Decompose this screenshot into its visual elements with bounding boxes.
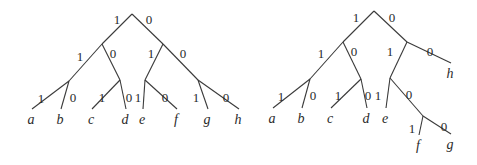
left-tree-branch-bit-label: 0 bbox=[146, 12, 153, 27]
left-tree-branch-bit-label: 0 bbox=[180, 46, 187, 61]
left-tree-leaf-branch bbox=[198, 80, 239, 109]
right-tree-leaf-symbol-g: g bbox=[447, 137, 454, 152]
right-tree-branch bbox=[310, 42, 343, 79]
left-tree-leaf-symbol-c: c bbox=[88, 112, 95, 127]
right-tree-leaf-symbol-e: e bbox=[382, 111, 388, 126]
left-tree-leaf-symbol-b: b bbox=[57, 112, 64, 127]
left-tree-leaf-symbol-d: d bbox=[122, 112, 130, 127]
right-tree-leaf-bit-label: 0 bbox=[427, 44, 434, 59]
right-tree-leaf-branch bbox=[419, 116, 423, 135]
left-tree-leaf-symbol-f: f bbox=[174, 112, 180, 127]
left-tree-leaf-bit-label: 0 bbox=[70, 90, 77, 105]
right-tree-leaf-symbol-d: d bbox=[363, 111, 371, 126]
left-tree-branch-bit-label: 1 bbox=[77, 49, 84, 64]
left-tree-leaf-bit-label: 1 bbox=[193, 90, 200, 105]
right-tree-leaf-bit-label: 1 bbox=[335, 88, 342, 103]
left-tree-leaf-symbol-g: g bbox=[204, 112, 211, 127]
right-tree-leaf-bit-label: 1 bbox=[409, 121, 416, 136]
left-tree-leaf-branch bbox=[61, 81, 69, 109]
left-tree-leaf-bit-label: 0 bbox=[126, 90, 133, 105]
left-tree-leaf-branch bbox=[92, 80, 120, 109]
code-tree-diagram: 1010101a0b1c0d1e0f1g0h1010101a0b1c0d1e0h… bbox=[0, 0, 477, 165]
left-tree-leaf-symbol-e: e bbox=[139, 112, 145, 127]
right-tree-leaf-symbol-b: b bbox=[298, 111, 305, 126]
left-tree-leaf-bit-label: 1 bbox=[38, 91, 45, 106]
right-tree-branch-bit-label: 1 bbox=[318, 46, 325, 61]
left-tree-branch bbox=[69, 44, 102, 81]
right-tree-branch-bit-label: 0 bbox=[351, 44, 358, 59]
right-tree-leaf-bit-label: 1 bbox=[375, 88, 382, 103]
left-tree-leaf-bit-label: 1 bbox=[135, 90, 142, 105]
right-tree-leaf-symbol-h: h bbox=[447, 66, 454, 81]
left-tree-leaf-symbol-a: a bbox=[28, 112, 35, 127]
left-tree-branch-bit-label: 1 bbox=[114, 12, 121, 27]
right-tree-leaf-bit-label: 0 bbox=[365, 88, 372, 103]
left-tree-leaf-bit-label: 0 bbox=[223, 90, 230, 105]
right-tree-leaf-symbol-c: c bbox=[327, 111, 334, 126]
left-tree-leaf-symbol-h: h bbox=[235, 112, 242, 127]
right-tree-leaf-bit-label: 1 bbox=[278, 89, 285, 104]
right-tree-leaf-symbol-a: a bbox=[269, 111, 276, 126]
left-tree-branch-bit-label: 0 bbox=[110, 46, 117, 61]
right-tree-leaf-symbol-f: f bbox=[416, 138, 422, 153]
right-tree-leaf-branch bbox=[386, 78, 390, 108]
left-tree-leaf-bit-label: 1 bbox=[99, 90, 106, 105]
right-tree-branch-bit-label: 1 bbox=[353, 10, 360, 25]
right-tree-leaf-bit-label: 0 bbox=[310, 88, 317, 103]
right-tree-leaf-bit-label: 0 bbox=[441, 119, 448, 134]
right-tree-branch-bit-label: 0 bbox=[389, 10, 396, 25]
right-tree-branch-bit-label: 1 bbox=[387, 44, 394, 59]
left-tree-leaf-branch bbox=[198, 80, 208, 109]
left-tree-leaf-branch bbox=[143, 80, 145, 109]
left-tree-leaf-bit-label: 0 bbox=[162, 90, 169, 105]
right-tree-branch-bit-label: 0 bbox=[406, 87, 413, 102]
left-tree-branch-bit-label: 1 bbox=[148, 46, 155, 61]
